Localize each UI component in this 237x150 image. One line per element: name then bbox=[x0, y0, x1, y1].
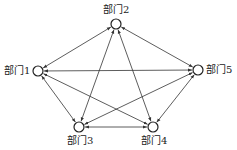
edge-n2-n4 bbox=[118, 30, 151, 122]
edge-n1-n2 bbox=[43, 27, 111, 68]
node-n4 bbox=[148, 122, 158, 132]
node-label-dept5: 部门5 bbox=[206, 65, 232, 75]
graph-canvas bbox=[0, 0, 237, 150]
edge-n4-n5 bbox=[157, 75, 195, 123]
edge-n2-n3 bbox=[81, 30, 114, 122]
node-label-dept3: 部门3 bbox=[67, 136, 93, 146]
node-label-dept1: 部门1 bbox=[4, 66, 30, 76]
node-n3 bbox=[74, 122, 84, 132]
edge-n1-n3 bbox=[42, 76, 76, 122]
edge-n3-n5 bbox=[84, 73, 192, 125]
node-n5 bbox=[193, 65, 203, 75]
node-label-dept4: 部门4 bbox=[141, 136, 167, 146]
node-n2 bbox=[111, 19, 121, 29]
edge-n2-n5 bbox=[121, 27, 193, 67]
edge-n1-n5 bbox=[44, 70, 192, 71]
node-label-dept2: 部门2 bbox=[103, 5, 129, 15]
node-n1 bbox=[33, 66, 43, 76]
